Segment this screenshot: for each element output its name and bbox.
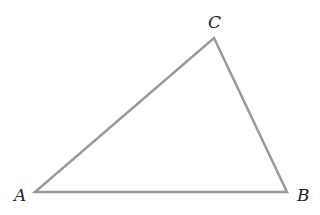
vertex-label-b: B — [296, 185, 310, 205]
triangle-abc — [35, 38, 287, 192]
triangle-svg: A B C — [0, 0, 320, 215]
triangle-diagram: A B C — [0, 0, 320, 215]
vertex-label-c: C — [208, 12, 221, 32]
vertex-label-a: A — [12, 185, 26, 205]
